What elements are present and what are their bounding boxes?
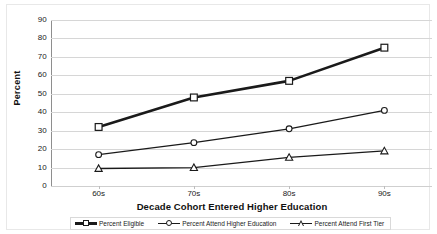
series-triangle [95, 147, 388, 171]
y-axis-tick-label: 90 [19, 16, 47, 24]
series-line [99, 110, 385, 154]
series-line [99, 151, 385, 169]
legend-entry[interactable]: Percent Attend Higher Education [158, 219, 276, 228]
y-axis-tick-label: 50 [19, 90, 47, 98]
y-axis-tick-label: 70 [19, 53, 47, 61]
legend-key-square-icon [75, 219, 97, 228]
data-point-circle-marker [286, 126, 292, 132]
legend-label: Percent Eligible [99, 220, 144, 228]
legend-label: Percent Attend Higher Education [182, 220, 276, 228]
chart-screenshot: Percent 9080706050403020100 60s70s80s90s… [0, 0, 437, 234]
data-point-square-marker [286, 77, 293, 84]
chart-legend: Percent EligiblePercent Attend Higher Ed… [70, 217, 391, 230]
chart-frame: Percent 9080706050403020100 60s70s80s90s… [6, 4, 430, 230]
gridline [51, 186, 432, 187]
y-axis-tick-label: 30 [19, 127, 47, 135]
y-axis-tick-label: 20 [19, 145, 47, 153]
plot-area [51, 20, 432, 186]
series-layer [51, 20, 432, 186]
legend-label: Percent Attend First Tier [314, 220, 384, 228]
data-point-square-marker [381, 44, 388, 51]
legend-entry[interactable]: Percent Eligible [75, 219, 144, 228]
y-axis-tick-label: 80 [19, 34, 47, 42]
data-point-circle-marker [96, 152, 102, 158]
x-axis-tick-label: 60s [74, 189, 124, 198]
y-axis-tick-label: 40 [19, 108, 47, 116]
x-axis-tick-label: 80s [264, 189, 314, 198]
legend-key-triangle-icon [290, 219, 312, 228]
x-axis-tick-labels: 60s70s80s90s [51, 189, 432, 201]
x-axis-title: Decade Cohort Entered Higher Education [37, 201, 427, 212]
legend-key-circle-icon [158, 219, 180, 228]
y-axis-tick-label: 0 [19, 182, 47, 190]
data-point-circle-marker [381, 107, 387, 113]
data-point-square-marker [190, 94, 197, 101]
y-axis-tick-label: 60 [19, 71, 47, 79]
data-point-square-marker [95, 124, 102, 131]
x-axis-tick-label: 90s [359, 189, 409, 198]
legend-entry[interactable]: Percent Attend First Tier [290, 219, 384, 228]
series-square [95, 44, 388, 130]
x-axis-tick-label: 70s [169, 189, 219, 198]
y-axis-tick-label: 10 [19, 164, 47, 172]
y-axis-tick-labels: 9080706050403020100 [15, 20, 47, 186]
series-line [99, 48, 385, 127]
data-point-circle-marker [191, 140, 197, 146]
